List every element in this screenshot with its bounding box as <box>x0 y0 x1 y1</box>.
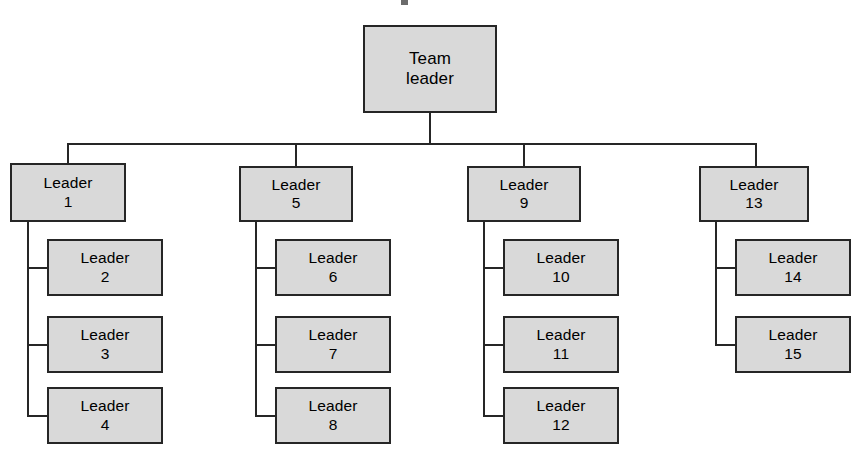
node-label-line2: 9 <box>520 194 529 212</box>
connector-bus-drop-1 <box>67 143 69 164</box>
node-leader-2[interactable]: Leader 2 <box>47 239 163 296</box>
node-leader-15[interactable]: Leader 15 <box>735 316 851 373</box>
node-leader-5[interactable]: Leader 5 <box>239 166 353 222</box>
node-leader-4[interactable]: Leader 4 <box>47 387 163 444</box>
node-leader-13[interactable]: Leader 13 <box>699 166 809 222</box>
node-label-line2: 3 <box>101 345 110 363</box>
node-leader-12[interactable]: Leader 12 <box>503 387 619 444</box>
node-leader-11[interactable]: Leader 11 <box>503 316 619 373</box>
node-label-line2: 5 <box>292 194 301 212</box>
node-label-line1: Leader <box>309 326 358 344</box>
connector-stub-leader-11 <box>483 344 505 346</box>
scan-artifact <box>401 0 408 5</box>
node-leader-14[interactable]: Leader 14 <box>735 239 851 296</box>
node-label-line2: 13 <box>745 194 762 212</box>
node-leader-1[interactable]: Leader 1 <box>10 163 126 222</box>
connector-stub-leader-12 <box>483 415 505 417</box>
node-label-line2: 12 <box>552 416 569 434</box>
node-label-line2: 10 <box>552 268 569 286</box>
node-label-line1: Leader <box>730 176 779 194</box>
node-label-line1: Leader <box>769 326 818 344</box>
node-label-line1: Leader <box>272 176 321 194</box>
node-label-line1: Leader <box>500 176 549 194</box>
connector-stub-leader-7 <box>255 344 277 346</box>
org-chart-canvas: Team leader Leader 1 Leader 2 Leader 3 L… <box>0 0 852 461</box>
connector-stub-leader-3 <box>27 344 49 346</box>
connector-stub-leader-4 <box>27 415 49 417</box>
node-label-line1: Leader <box>44 174 93 192</box>
node-label-line1: Leader <box>537 326 586 344</box>
connector-stub-leader-10 <box>483 267 505 269</box>
node-leader-8[interactable]: Leader 8 <box>275 387 391 444</box>
connector-stub-leader-8 <box>255 415 277 417</box>
node-label-line1: Leader <box>537 397 586 415</box>
node-team-leader[interactable]: Team leader <box>363 25 497 113</box>
connector-stub-leader-2 <box>27 267 49 269</box>
connector-bus-drop-2 <box>295 143 297 167</box>
node-label-line2: 1 <box>64 193 73 211</box>
connector-bus-drop-4 <box>755 143 757 167</box>
node-leader-7[interactable]: Leader 7 <box>275 316 391 373</box>
node-label-line1: Leader <box>537 249 586 267</box>
node-label-line1: Leader <box>81 397 130 415</box>
node-label-line2: leader <box>406 69 454 89</box>
connector-spine-4 <box>715 222 717 345</box>
connector-bus-drop-3 <box>523 143 525 167</box>
node-label-line2: 6 <box>329 268 338 286</box>
connector-root-stem <box>429 113 431 144</box>
node-label-line2: 14 <box>784 268 801 286</box>
node-label-line2: 2 <box>101 268 110 286</box>
connector-stub-leader-15 <box>715 344 737 346</box>
node-label-line1: Leader <box>81 249 130 267</box>
connector-spine-1 <box>27 222 29 416</box>
node-label-line2: 4 <box>101 416 110 434</box>
connector-spine-2 <box>255 222 257 416</box>
connector-root-bus <box>68 143 757 145</box>
connector-stub-leader-6 <box>255 267 277 269</box>
node-label-line2: 7 <box>329 345 338 363</box>
node-leader-9[interactable]: Leader 9 <box>467 166 581 222</box>
connector-stub-leader-14 <box>715 267 737 269</box>
node-label-line1: Leader <box>769 249 818 267</box>
node-label-line2: 8 <box>329 416 338 434</box>
node-label-line1: Leader <box>309 397 358 415</box>
node-label-line2: 15 <box>784 345 801 363</box>
connector-spine-3 <box>483 222 485 416</box>
node-leader-6[interactable]: Leader 6 <box>275 239 391 296</box>
node-label-line2: 11 <box>553 345 569 363</box>
node-label-line1: Leader <box>309 249 358 267</box>
node-leader-3[interactable]: Leader 3 <box>47 316 163 373</box>
node-label-line1: Team <box>409 49 451 69</box>
node-label-line1: Leader <box>81 326 130 344</box>
node-leader-10[interactable]: Leader 10 <box>503 239 619 296</box>
